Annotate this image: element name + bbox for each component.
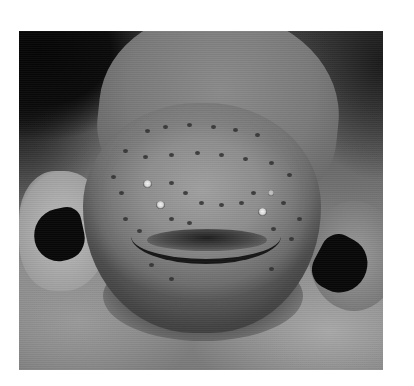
eel-nostril-right [258,208,267,216]
eel-nostril-left [156,201,165,209]
eel-eye-right [268,190,274,196]
eel-eye-left [143,180,152,188]
eel-head [83,103,321,333]
eel-photograph: Grayscale close-up photograph of an elec… [19,31,383,370]
